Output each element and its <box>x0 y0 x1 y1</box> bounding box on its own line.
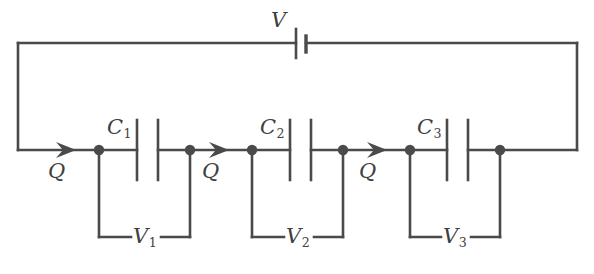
capacitor-3-subscript: 3 <box>434 126 442 141</box>
voltage-1-base: V <box>133 224 148 248</box>
capacitor-3-base: C <box>417 115 433 139</box>
junction-dot-2 <box>185 145 195 155</box>
voltage-1-label: V1 <box>133 226 156 247</box>
capacitor-2-subscript: 2 <box>277 126 285 141</box>
battery-voltage-label: V <box>271 10 286 31</box>
capacitor-2-label: C2 <box>260 117 284 138</box>
voltage-3-base: V <box>443 224 458 248</box>
capacitor-2-base: C <box>260 115 276 139</box>
voltage-1-subscript: 1 <box>149 235 157 250</box>
junction-dot-1 <box>94 145 104 155</box>
capacitor-1-base: C <box>107 115 123 139</box>
charge-label-2: Q <box>202 161 219 182</box>
junction-dot-4 <box>338 145 348 155</box>
voltage-3-subscript: 3 <box>459 235 467 250</box>
capacitor-3-label: C3 <box>417 117 441 138</box>
junction-dot-6 <box>495 145 505 155</box>
capacitor-1-label: C1 <box>107 117 131 138</box>
voltage-2-label: V2 <box>286 226 309 247</box>
junction-dot-5 <box>405 145 415 155</box>
junction-dot-3 <box>247 145 257 155</box>
voltage-2-subscript: 2 <box>302 235 310 250</box>
capacitor-1-subscript: 1 <box>124 126 132 141</box>
charge-label-3: Q <box>359 161 376 182</box>
voltage-3-label: V3 <box>443 226 466 247</box>
voltage-2-base: V <box>286 224 301 248</box>
circuit-diagram-figure: V C1 C2 C3 Q Q Q V1 V2 V3 <box>0 0 594 274</box>
charge-label-1: Q <box>48 161 65 182</box>
